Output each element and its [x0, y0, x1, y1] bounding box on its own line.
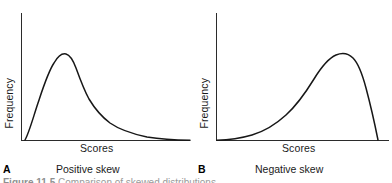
panel-description-a: Positive skew	[56, 163, 120, 176]
panel-negative-skew: Frequency Scores	[196, 0, 392, 160]
panel-letter-a: A	[3, 163, 11, 176]
positive-skew-plot	[0, 0, 196, 160]
panel-description-b: Negative skew	[255, 163, 323, 176]
y-axis-label-a: Frequency	[4, 78, 15, 129]
skew-comparison-figure: Frequency Scores Frequency Scores A Posi…	[0, 0, 392, 183]
y-axis-label-b: Frequency	[199, 78, 210, 129]
negative-skew-plot	[196, 0, 392, 160]
positive-skew-curve	[25, 54, 190, 140]
figure-caption-number: Figure 11.5	[3, 177, 55, 183]
panel-positive-skew: Frequency Scores	[0, 0, 196, 160]
figure-caption: Figure 11.5 Comparison of skewed distrib…	[3, 177, 389, 183]
figure-caption-text: Comparison of skewed distributions	[58, 177, 216, 183]
x-axis-label-a: Scores	[80, 143, 113, 154]
panel-letter-b: B	[198, 163, 206, 176]
negative-skew-curve	[217, 54, 378, 141]
x-axis-label-b: Scores	[282, 143, 315, 154]
